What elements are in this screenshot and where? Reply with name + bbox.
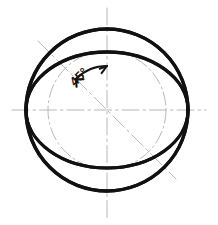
- angle-label-group: 45°: [67, 65, 92, 90]
- angle-label: 45°: [67, 65, 92, 90]
- technical-drawing-figure: 45°: [0, 0, 218, 225]
- drawing-canvas: 45°: [0, 0, 218, 225]
- construction-lines-group: [12, 8, 206, 220]
